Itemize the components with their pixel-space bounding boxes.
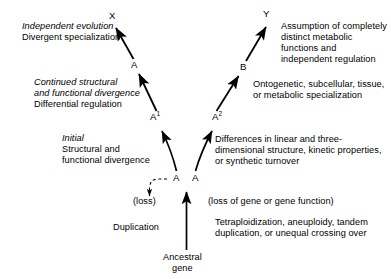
label-functional-divergence: and functional divergence: [34, 88, 140, 100]
node-a-center-left: A: [173, 173, 179, 183]
label-assumption-line1: Assumption of completely: [281, 21, 387, 33]
label-loss-of-gene-function: (loss of gene or gene function): [208, 196, 334, 208]
label-functional-divergence-initial: functional divergence: [62, 155, 150, 167]
label-duplication: Duplication: [113, 222, 159, 234]
arrow-loss-dashed: [150, 179, 168, 196]
label-divergent-specialization: Divergent specialization: [22, 32, 120, 44]
node-b-upper-right: B: [240, 62, 246, 72]
label-loss: (loss): [133, 196, 156, 208]
label-ontogenetic-line2: or metabolic specialization: [253, 90, 362, 102]
label-initial: Initial: [62, 133, 84, 145]
label-ancestral-line2: gene: [172, 263, 193, 275]
node-a-upper-left: A: [131, 60, 137, 70]
node-a1-superscript: 1: [156, 110, 160, 117]
label-differences-line3: or synthetic turnover: [215, 156, 299, 168]
label-independent-evolution: Independent evolution: [22, 21, 113, 33]
node-y: Y: [263, 9, 269, 19]
node-a-center-right: A: [192, 173, 198, 183]
label-differential-regulation: Differential regulation: [34, 99, 122, 111]
label-mechanism-line2: duplication, or unequal crossing over: [215, 228, 367, 240]
label-ontogenetic-line1: Ontogenetic, subcellular, tissue,: [253, 79, 384, 91]
gene-divergence-diagram: X Y A B A1 A2 A A (loss) Independent evo…: [0, 0, 391, 279]
label-assumption-line2: distinct metabolic: [281, 32, 352, 44]
arrow-a1-to-a: [139, 74, 157, 111]
arrow-center-to-a1: [162, 131, 177, 171]
label-differences-line1: Differences in linear and three-: [215, 134, 342, 146]
label-continued-structural: Continued structural: [34, 77, 117, 89]
arrow-a2-to-b: [217, 76, 239, 111]
node-a1: A1: [150, 112, 160, 122]
node-a2: A2: [212, 112, 222, 122]
label-ancestral-line1: Ancestral: [163, 252, 202, 264]
arrow-center-to-a2: [196, 131, 213, 171]
arrow-b-to-y: [246, 27, 266, 61]
label-structural-and: Structural and: [62, 144, 120, 156]
label-differences-line2: dimensional structure, kinetic propertie…: [215, 145, 382, 157]
label-mechanism-line1: Tetraploidization, aneuploidy, tandem: [215, 217, 368, 229]
node-x: X: [109, 11, 115, 21]
label-assumption-line3: functions and: [281, 43, 336, 55]
node-a2-superscript: 2: [218, 110, 222, 117]
label-assumption-line4: independent regulation: [281, 54, 376, 66]
